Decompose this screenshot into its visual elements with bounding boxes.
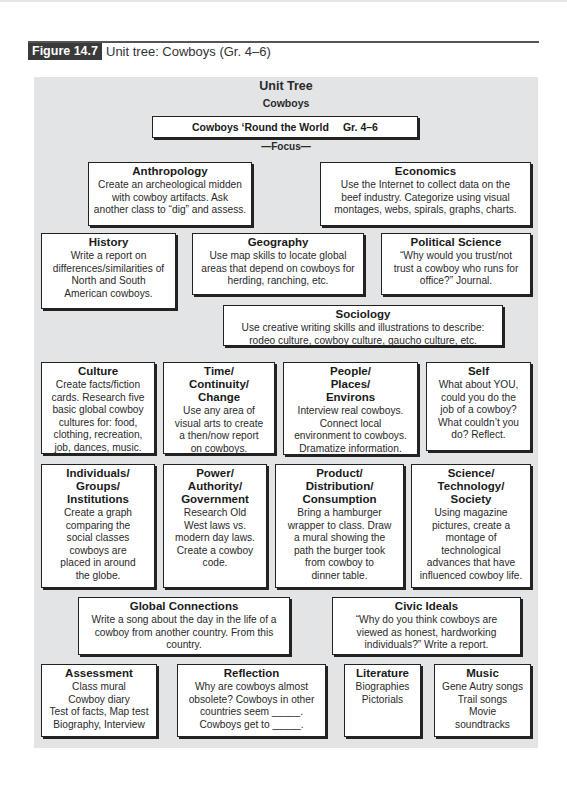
box-title: Sociology: [227, 308, 499, 321]
box-text: Use creative writing skills and illustra…: [227, 322, 499, 347]
box-title: Assessment: [45, 667, 153, 680]
box-title: Geography: [196, 236, 360, 249]
box-text: Create a graph comparing the social clas…: [45, 507, 151, 583]
box-title: Science/ Technology/ Society: [415, 467, 527, 506]
box-product-distribution-consumption: Product/ Distribution/ Consumption Bring…: [275, 464, 404, 588]
box-text: Gene Autry songs Trail songs Movie sound…: [438, 681, 527, 731]
box-text: Use any area of visual arts to create a …: [167, 405, 271, 455]
box-title: History: [45, 236, 172, 249]
tree-heading: Unit Tree: [34, 79, 538, 93]
box-self: Self What about YOU, could you do the jo…: [426, 362, 531, 451]
box-title: Product/ Distribution/ Consumption: [279, 467, 400, 506]
box-title: Individuals/ Groups/ Institutions: [45, 467, 151, 506]
box-reflection: Reflection Why are cowboys almost obsole…: [177, 664, 326, 737]
box-text: Create an archeological midden with cowb…: [92, 179, 248, 217]
box-sociology: Sociology Use creative writing skills an…: [223, 305, 503, 346]
box-text: Bring a hamburger wrapper to class. Draw…: [279, 507, 400, 583]
focus-label: —Focus—: [34, 141, 538, 152]
box-text: “Why would you trust/not trust a cowboy …: [385, 250, 527, 288]
box-text: Use map skills to locate global areas th…: [196, 250, 360, 288]
box-people-places-environs: People/ Places/ Environs Interview real …: [283, 362, 418, 455]
unit-title-box: Cowboys ‘Round the WorldGr. 4–6: [152, 116, 418, 138]
box-text: Create facts/fiction cards. Research fiv…: [45, 379, 151, 455]
box-text: Interview real cowboys. Connect local en…: [287, 405, 414, 455]
tree-subheading: Cowboys: [34, 97, 538, 109]
box-text: “Why do you think cowboys are viewed as …: [336, 614, 517, 652]
box-title: Time/ Continuity/ Change: [167, 365, 271, 404]
page-top-rule: [0, 0, 567, 2]
figure-rule: [28, 41, 539, 43]
box-title: Culture: [45, 365, 151, 378]
figure-label: Figure 14.7: [28, 43, 102, 60]
box-text: Write a report on differences/similariti…: [45, 250, 172, 300]
box-global-connections: Global Connections Write a song about th…: [78, 597, 290, 655]
box-culture: Culture Create facts/fiction cards. Rese…: [41, 362, 155, 454]
box-anthropology: Anthropology Create an archeological mid…: [88, 162, 252, 226]
box-geography: Geography Use map skills to locate globa…: [192, 233, 364, 295]
box-music: Music Gene Autry songs Trail songs Movie…: [434, 664, 531, 737]
box-title: Literature: [348, 667, 417, 680]
box-time-continuity-change: Time/ Continuity/ Change Use any area of…: [163, 362, 275, 454]
box-title: Global Connections: [82, 600, 286, 613]
figure-caption: Unit tree: Cowboys (Gr. 4–6): [106, 43, 271, 60]
box-title: Anthropology: [92, 165, 248, 178]
box-text: Biographies Pictorials: [348, 681, 417, 706]
box-history: History Write a report on differences/si…: [41, 233, 176, 309]
box-title: Civic Ideals: [336, 600, 517, 613]
box-text: Using magazine pictures, create a montag…: [415, 507, 527, 583]
box-text: Use the Internet to collect data on the …: [324, 179, 527, 217]
box-title: Power/ Authority/ Government: [167, 467, 263, 506]
box-text: What about YOU, could you do the job of …: [430, 379, 527, 442]
box-title: Political Science: [385, 236, 527, 249]
box-title: Economics: [324, 165, 527, 178]
box-civic-ideals: Civic Ideals “Why do you think cowboys a…: [332, 597, 521, 655]
box-title: Reflection: [181, 667, 322, 680]
box-text: Research Old West laws vs. modern day la…: [167, 507, 263, 570]
box-text: Why are cowboys almost obsolete? Cowboys…: [181, 681, 322, 731]
unit-title: Cowboys ‘Round the World: [192, 121, 329, 133]
box-title: Self: [430, 365, 527, 378]
box-assessment: Assessment Class mural Cowboy diary Test…: [41, 664, 157, 737]
box-literature: Literature Biographies Pictorials: [344, 664, 421, 737]
box-power-authority-government: Power/ Authority/ Government Research Ol…: [163, 464, 267, 588]
box-economics: Economics Use the Internet to collect da…: [320, 162, 531, 226]
box-title: Music: [438, 667, 527, 680]
box-political-science: Political Science “Why would you trust/n…: [381, 233, 531, 295]
box-title: People/ Places/ Environs: [287, 365, 414, 404]
box-text: Write a song about the day in the life o…: [82, 614, 286, 652]
unit-grade: Gr. 4–6: [343, 121, 378, 133]
box-science-technology-society: Science/ Technology/ Society Using magaz…: [411, 464, 531, 588]
box-individuals-groups-institutions: Individuals/ Groups/ Institutions Create…: [41, 464, 155, 588]
box-text: Class mural Cowboy diary Test of facts, …: [45, 681, 153, 731]
